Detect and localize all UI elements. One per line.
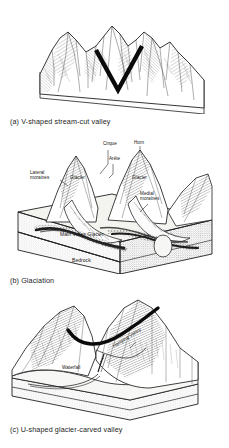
caption-panel-a: (a) V-shaped stream-cut valley bbox=[10, 117, 110, 126]
label-bedrock: Bedrock bbox=[72, 258, 91, 263]
label-medial-moraines-line2: moraines bbox=[140, 196, 159, 201]
label-arete: Arête bbox=[109, 156, 120, 161]
label-waterfall: Waterfall bbox=[62, 365, 80, 370]
caption-panel-c: (c) U-shaped glacier-carved valley bbox=[10, 425, 122, 434]
panel-b-illustration bbox=[0, 134, 229, 274]
panel-c-illustration bbox=[0, 292, 229, 424]
caption-panel-b: (b) Glaciation bbox=[10, 276, 54, 285]
panel-v-shaped-valley: (a) V-shaped stream-cut valley bbox=[0, 2, 229, 134]
panel-glaciation: Cirque Horn Arête Lateral moraines Glaci… bbox=[0, 134, 229, 292]
label-main-valley-glacier: Main Valley Glacier bbox=[60, 232, 104, 237]
label-glacier-left: Glacier bbox=[70, 175, 85, 180]
glacier-terminus-lobe bbox=[154, 235, 172, 257]
panel-a-illustration bbox=[0, 2, 229, 114]
glacial-valley-figure: (a) V-shaped stream-cut valley bbox=[0, 0, 229, 448]
label-lateral-moraines-line2: moraines bbox=[30, 175, 49, 180]
label-cirque: Cirque bbox=[103, 141, 117, 146]
label-glacier-right: Glacier bbox=[132, 175, 147, 180]
label-horn: Horn bbox=[134, 140, 144, 145]
panel-u-shaped-valley: Hanging Valley Waterfall (c) U-shaped gl… bbox=[0, 292, 229, 448]
